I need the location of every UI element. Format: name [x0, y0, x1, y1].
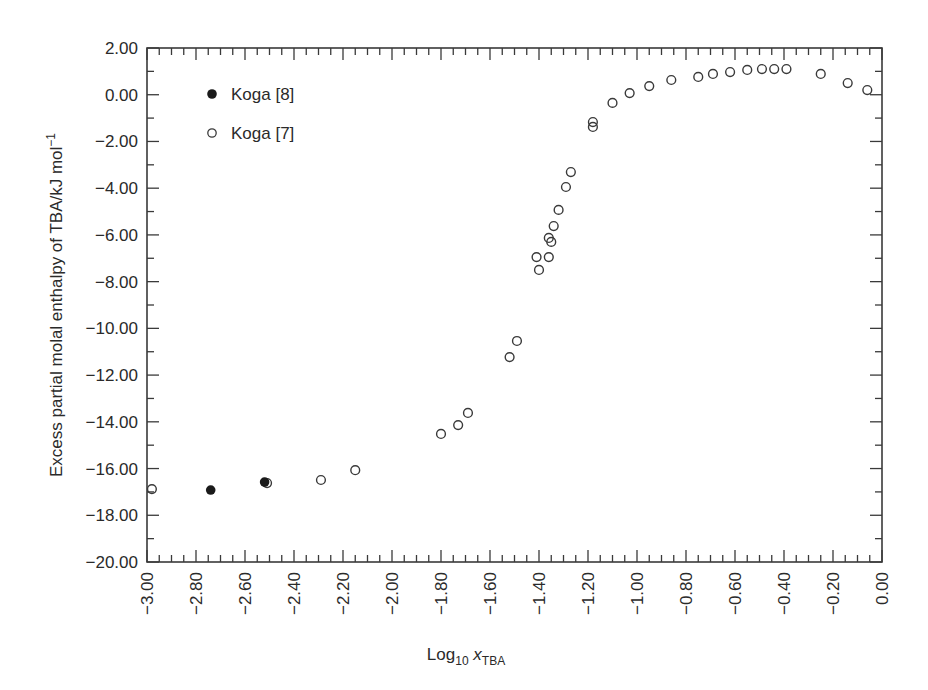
x-tick-label: −1.20 — [579, 572, 598, 615]
x-tick-label: −3.00 — [138, 572, 157, 615]
legend-label: Koga [7] — [231, 124, 294, 143]
x-axis-title-sub: 10 — [455, 654, 469, 668]
x-tick-label: −1.00 — [628, 572, 647, 615]
y-tick-label: −10.00 — [86, 319, 138, 338]
filled-data-point — [260, 477, 270, 487]
y-axis-title: Excess partial molal enthalpy of TBA/kJ … — [44, 133, 66, 477]
x-tick-label: −0.80 — [677, 572, 696, 615]
y-tick-label: −16.00 — [86, 460, 138, 479]
x-tick-label: −0.60 — [726, 572, 745, 615]
y-tick-label: 2.00 — [105, 39, 138, 58]
y-axis-title-sup: −1 — [44, 133, 58, 147]
filled-circle-marker-icon — [207, 89, 217, 99]
x-tick-label: −0.20 — [824, 572, 843, 615]
y-tick-label: −8.00 — [95, 273, 138, 292]
x-tick-label: −2.60 — [236, 572, 255, 615]
x-tick-label: −2.20 — [334, 572, 353, 615]
x-tick-label: −2.80 — [187, 572, 206, 615]
x-tick-label: −2.00 — [383, 572, 402, 615]
x-axis-title-var: x — [469, 645, 483, 664]
x-tick-label: −1.40 — [530, 572, 549, 615]
y-tick-label: −12.00 — [86, 366, 138, 385]
x-tick-label: −0.40 — [775, 572, 794, 615]
y-tick-label: −2.00 — [95, 132, 138, 151]
y-tick-label: −4.00 — [95, 179, 138, 198]
scatter-chart: −3.00−2.80−2.60−2.40−2.20−2.00−1.80−1.60… — [0, 0, 928, 690]
y-axis-title-main: Excess partial molal enthalpy of TBA/kJ … — [47, 147, 66, 477]
open-circle-marker-icon — [208, 129, 216, 137]
y-tick-label: 0.00 — [105, 86, 138, 105]
x-tick-label: −1.60 — [481, 572, 500, 615]
x-tick-label: −2.40 — [285, 572, 304, 615]
y-tick-label: −6.00 — [95, 226, 138, 245]
y-tick-label: −14.00 — [86, 413, 138, 432]
x-tick-label: 0.00 — [873, 572, 892, 605]
y-tick-label: −20.00 — [86, 553, 138, 572]
legend-label: Koga [8] — [231, 85, 294, 104]
x-axis-title-main: Log — [427, 645, 455, 664]
x-tick-label: −1.80 — [432, 572, 451, 615]
filled-data-point — [206, 485, 216, 495]
y-tick-label: −18.00 — [86, 506, 138, 525]
x-axis-title-sub: TBA — [482, 654, 505, 668]
